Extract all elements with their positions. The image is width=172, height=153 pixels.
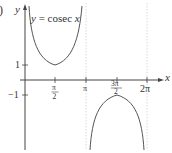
y-tick-label-minus1: −1: [8, 89, 19, 100]
y-axis-arrow-icon: [23, 4, 27, 10]
x-tick-label-pi-over-2-num: π: [52, 83, 56, 92]
x-axis-arrow-icon: [158, 78, 164, 82]
curve-lower-branch: [90, 95, 144, 150]
x-tick-label-2pi: 2π: [140, 83, 150, 94]
function-label: y = cosec x: [30, 12, 80, 24]
x-tick-label-pi: π: [83, 84, 87, 93]
y-tick-label-1: 1: [15, 59, 20, 70]
panel-marker: ): [0, 3, 3, 17]
x-tick-label-pi-over-2-den: 2: [53, 92, 57, 101]
y-axis-label: y: [14, 3, 20, 15]
cosec-graph: ) y x 1 −1 π 2 π 3π 2 2π y = cosec x: [0, 0, 172, 153]
x-axis-label: x: [164, 71, 170, 83]
